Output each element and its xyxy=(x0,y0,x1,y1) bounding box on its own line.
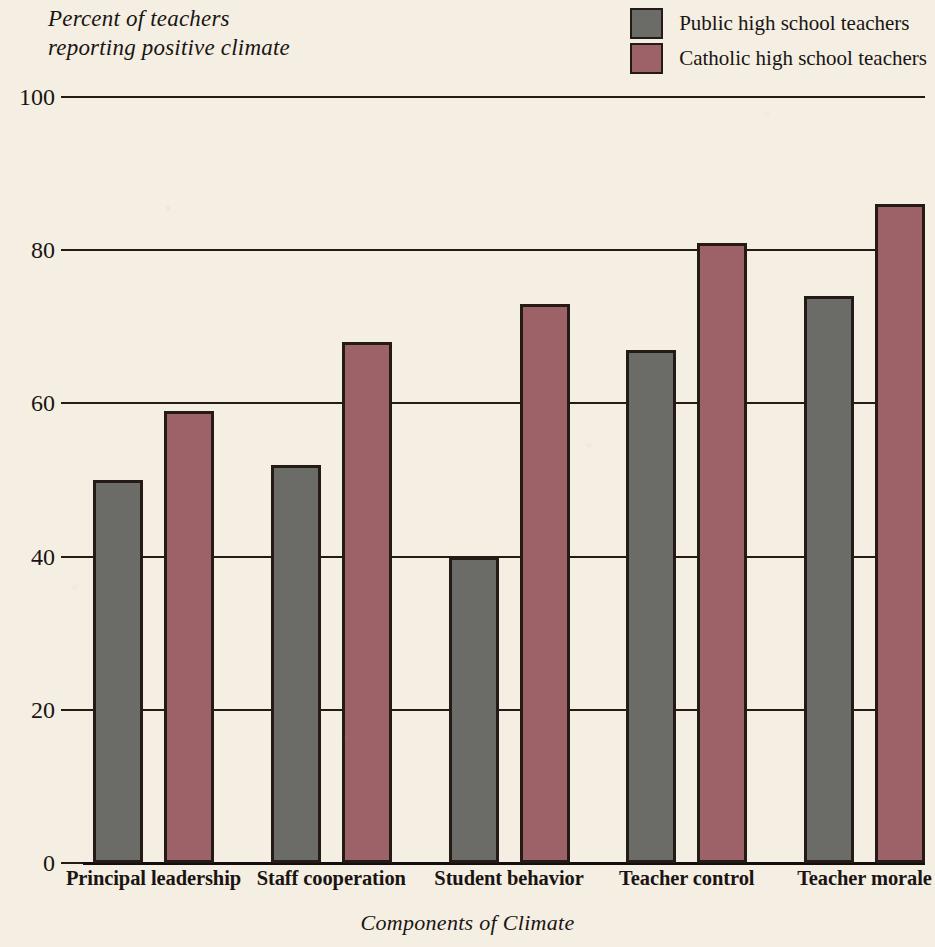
bar-student-behavior-catholic xyxy=(520,304,570,863)
chart-legend: Public high school teachers Catholic hig… xyxy=(630,8,927,74)
legend-label-public: Public high school teachers xyxy=(679,12,909,35)
y-tick-label-80: 80 xyxy=(31,238,55,262)
bar-student-behavior-public xyxy=(449,557,499,863)
bar-staff-cooperation-public xyxy=(271,465,321,863)
bar-teacher-control-public xyxy=(626,350,676,863)
legend-item-public: Public high school teachers xyxy=(630,8,927,39)
x-axis-caption: Components of Climate xyxy=(0,910,935,936)
x-tick-label-teacher-morale: Teacher morale xyxy=(797,866,932,890)
y-tick-label-20: 20 xyxy=(31,698,55,722)
legend-label-catholic: Catholic high school teachers xyxy=(679,47,927,70)
legend-swatch-catholic xyxy=(630,43,663,74)
legend-swatch-public xyxy=(630,8,663,39)
plot-area: 020406080100 xyxy=(83,97,925,863)
y-tick-mark-0 xyxy=(61,862,83,864)
y-tick-mark-100 xyxy=(61,96,83,98)
bar-group-container xyxy=(83,97,925,863)
y-tick-label-60: 60 xyxy=(31,391,55,415)
y-tick-mark-80 xyxy=(61,249,83,251)
bar-staff-cooperation-catholic xyxy=(342,342,392,863)
y-tick-mark-40 xyxy=(61,556,83,558)
bar-teacher-morale-catholic xyxy=(875,204,925,863)
bar-principal-leadership-public xyxy=(93,480,143,863)
x-tick-label-student-behavior: Student behavior xyxy=(434,866,583,890)
y-tick-mark-20 xyxy=(61,709,83,711)
y-tick-mark-60 xyxy=(61,402,83,404)
y-axis-caption: Percent of teachers reporting positive c… xyxy=(48,4,290,62)
x-tick-label-principal-leadership: Principal leadership xyxy=(66,866,241,890)
y-tick-label-40: 40 xyxy=(31,545,55,569)
legend-item-catholic: Catholic high school teachers xyxy=(630,43,927,74)
bar-principal-leadership-catholic xyxy=(164,411,214,863)
x-tick-label-teacher-control: Teacher control xyxy=(619,866,754,890)
bar-teacher-control-catholic xyxy=(697,243,747,863)
x-tick-label-staff-cooperation: Staff cooperation xyxy=(257,866,406,890)
x-axis-tick-labels: Principal leadershipStaff cooperationStu… xyxy=(30,866,935,900)
bar-teacher-morale-public xyxy=(804,296,854,863)
y-tick-label-100: 100 xyxy=(19,85,55,109)
